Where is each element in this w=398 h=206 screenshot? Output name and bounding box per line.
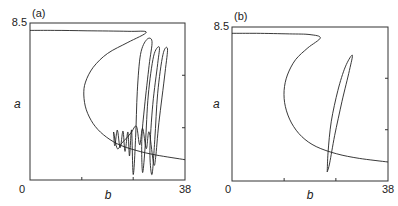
y-axis-label: a <box>213 97 220 111</box>
y-axis-label: a <box>14 97 21 111</box>
figure: (a) 8.5 0 38 a b (b) 8.5 0 38 a b <box>0 0 398 206</box>
nullcline-curve <box>30 30 185 159</box>
panel-label: (a) <box>32 7 45 19</box>
ticks <box>82 75 185 180</box>
x-axis-label: b <box>307 188 314 202</box>
plot-frame <box>232 27 388 181</box>
x-tick-label-min: 0 <box>225 183 231 195</box>
x-tick-label-max: 38 <box>382 183 394 195</box>
x-axis-label: b <box>105 188 112 202</box>
y-tick-label-max: 8.5 <box>214 20 229 32</box>
x-tick-label-min: 0 <box>19 183 25 195</box>
panel-a: (a) 8.5 0 38 a b <box>12 7 191 202</box>
trajectory-curve <box>114 38 168 175</box>
x-tick-label-max: 38 <box>179 183 191 195</box>
panel-b: (b) 8.5 0 38 a b <box>213 10 394 202</box>
y-tick-label-max: 8.5 <box>12 16 27 28</box>
panel-label: (b) <box>234 10 247 22</box>
nullcline-curve <box>232 33 388 162</box>
